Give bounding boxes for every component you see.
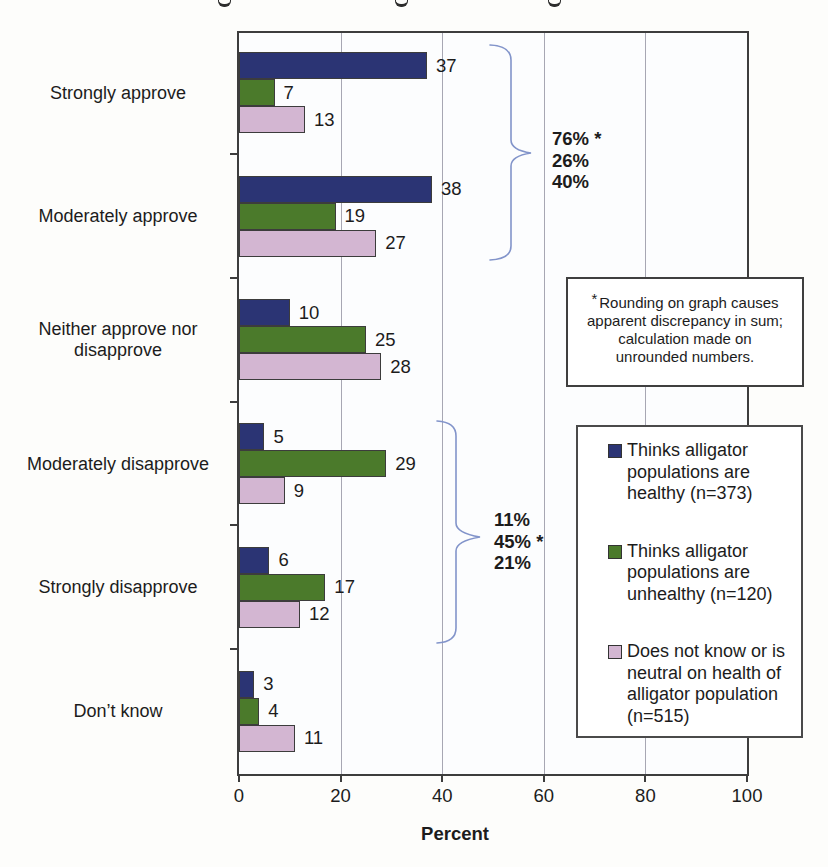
legend-box: Thinks alligator populations are healthy… <box>576 425 803 738</box>
x-tick-label: 60 <box>534 785 555 807</box>
y-tick-mark <box>230 153 237 155</box>
annotation-line: 76% * <box>552 128 601 150</box>
gridline-40 <box>442 33 443 774</box>
x-tick-label: 80 <box>635 785 656 807</box>
y-tick-mark <box>230 401 237 403</box>
category-label: Moderately disapprove <box>16 453 220 474</box>
y-tick-mark <box>230 648 237 650</box>
bar-value-label: 9 <box>294 480 304 502</box>
x-tick-label: 20 <box>330 785 351 807</box>
y-tick-mark <box>230 277 237 279</box>
bar-value-label: 7 <box>284 82 294 104</box>
legend-entry-unhealthy: Thinks alligator populations are unhealt… <box>608 541 795 606</box>
legend-label: Does not know or is neutral on health of… <box>627 641 785 726</box>
bar <box>239 423 264 450</box>
x-tick-mark <box>543 776 545 782</box>
category-label: Moderately approve <box>16 206 220 227</box>
legend-label: Thinks alligator populations are healthy… <box>627 440 753 503</box>
bar-value-label: 17 <box>334 576 355 598</box>
disapprove-sum-annotation: 11% 45% * 21% <box>494 509 543 574</box>
legend-entry-healthy: Thinks alligator populations are healthy… <box>608 440 795 505</box>
gridline-60 <box>544 33 545 774</box>
x-tick-label: 40 <box>432 785 453 807</box>
bar <box>239 725 295 752</box>
title-descender-fragment <box>395 0 408 7</box>
bar <box>239 106 305 133</box>
bar-value-label: 37 <box>436 55 457 77</box>
legend-swatch <box>608 444 622 458</box>
bar-value-label: 29 <box>395 453 416 475</box>
x-tick-mark <box>441 776 443 782</box>
bar <box>239 299 290 326</box>
bar-value-label: 4 <box>268 700 278 722</box>
bar <box>239 671 254 698</box>
legend-swatch <box>608 645 622 659</box>
bar <box>239 698 259 725</box>
x-axis-title: Percent <box>421 823 489 845</box>
legend-entry-neutral: Does not know or is neutral on health of… <box>608 641 795 727</box>
annotation-line: 26% <box>552 150 601 172</box>
x-tick-label: 100 <box>732 785 763 807</box>
annotation-line: 21% <box>494 552 543 574</box>
legend-swatch <box>608 545 622 559</box>
bar-value-label: 38 <box>441 178 462 200</box>
approve-sum-annotation: 76% * 26% 40% <box>552 128 601 193</box>
category-label: Neither approve nor disapprove <box>16 319 220 361</box>
bar <box>239 230 376 257</box>
bar <box>239 477 285 504</box>
bar <box>239 450 386 477</box>
bar <box>239 203 336 230</box>
bar-value-label: 19 <box>345 205 366 227</box>
bar <box>239 574 325 601</box>
bar <box>239 326 366 353</box>
bar <box>239 52 427 79</box>
bar-value-label: 3 <box>263 673 273 695</box>
x-tick-mark <box>340 776 342 782</box>
annotation-line: 11% <box>494 509 543 531</box>
bar-value-label: 27 <box>385 232 406 254</box>
title-descender-fragment <box>548 0 561 7</box>
x-tick-mark <box>746 776 748 782</box>
bar <box>239 547 269 574</box>
note-line: *Rounding on graph causes <box>574 294 796 312</box>
category-label: Strongly disapprove <box>16 577 220 598</box>
legend-label: Thinks alligator populations are unhealt… <box>627 541 773 604</box>
note-line: unrounded numbers. <box>574 348 796 366</box>
annotation-line: 40% <box>552 171 601 193</box>
x-tick-label: 0 <box>234 785 244 807</box>
bar <box>239 601 300 628</box>
category-label: Strongly approve <box>16 82 220 103</box>
bar-value-label: 11 <box>304 727 323 749</box>
bar <box>239 79 275 106</box>
x-tick-mark <box>644 776 646 782</box>
rounding-note-box: *Rounding on graph causes apparent discr… <box>566 277 804 387</box>
y-tick-mark <box>230 524 237 526</box>
title-descender-fragment <box>218 0 231 7</box>
bar-value-label: 6 <box>278 549 288 571</box>
gridline-20 <box>341 33 342 774</box>
note-line: apparent discrepancy in sum; <box>574 312 796 330</box>
bar-value-label: 10 <box>299 302 320 324</box>
category-label: Don’t know <box>16 701 220 722</box>
bar-value-label: 5 <box>273 426 283 448</box>
note-line: calculation made on <box>574 330 796 348</box>
bar-value-label: 28 <box>390 356 411 378</box>
note-asterisk: * <box>591 290 599 307</box>
bar-value-label: 12 <box>309 603 330 625</box>
bar-value-label: 13 <box>314 109 335 131</box>
bar <box>239 353 381 380</box>
annotation-line: 45% * <box>494 531 543 553</box>
x-tick-mark <box>238 776 240 782</box>
note-line-text: Rounding on graph causes <box>599 294 778 311</box>
chart-canvas: 76% * 26% 40% 11% 45% * 21% *Rounding on… <box>0 0 828 867</box>
bar-value-label: 25 <box>375 329 396 351</box>
bar <box>239 176 432 203</box>
